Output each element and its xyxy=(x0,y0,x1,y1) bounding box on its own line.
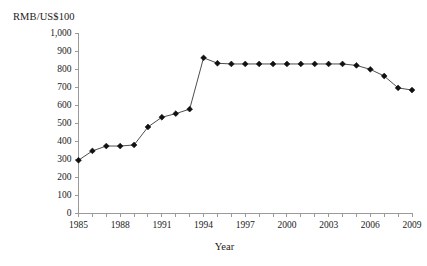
y-axis-group: 1,0009008007006005004003002001000 xyxy=(50,28,78,218)
data-point-marker xyxy=(103,143,109,149)
chart-container: RMB/US$100 1,000900800700600500400300200… xyxy=(0,0,427,266)
data-point-marker xyxy=(367,66,373,72)
data-point-marker xyxy=(256,61,262,67)
data-point-marker xyxy=(298,61,304,67)
y-tick-label: 800 xyxy=(57,64,72,74)
data-point-marker xyxy=(215,60,221,66)
y-tick-label: 600 xyxy=(57,100,72,110)
data-point-marker xyxy=(409,87,415,93)
data-point-marker xyxy=(187,106,193,112)
y-tick-label: 300 xyxy=(57,154,72,164)
y-tick-label: 200 xyxy=(57,172,72,182)
data-point-marker xyxy=(340,61,346,67)
x-axis-group: 198519881991199419972000200320062009 xyxy=(69,213,422,230)
axis-lines xyxy=(79,33,413,214)
x-tick-label: 2003 xyxy=(319,220,338,230)
data-point-marker xyxy=(354,63,360,69)
data-point-marker xyxy=(173,111,179,117)
data-point-marker xyxy=(117,143,123,149)
y-tick-label: 1,000 xyxy=(50,28,72,38)
x-axis-title: Year xyxy=(0,241,427,252)
x-axis-title-label: Year xyxy=(215,241,234,252)
chart-plot-area: 1,0009008007006005004003002001000 198519… xyxy=(0,0,427,266)
data-point-marker xyxy=(89,148,95,154)
y-tick-label: 100 xyxy=(57,190,72,200)
x-tick-label: 2006 xyxy=(361,220,380,230)
x-tick-label: 1994 xyxy=(194,220,213,230)
y-tick-label: 900 xyxy=(57,46,72,56)
data-point-marker xyxy=(76,157,82,163)
data-point-marker xyxy=(201,55,207,61)
y-tick-label: 700 xyxy=(57,82,72,92)
data-point-marker xyxy=(228,61,234,67)
x-tick-label: 1991 xyxy=(152,220,171,230)
x-tick-label: 1988 xyxy=(111,220,130,230)
data-series-group xyxy=(76,55,415,163)
y-tick-label: 500 xyxy=(57,118,72,128)
data-point-marker xyxy=(270,61,276,67)
x-tick-label: 1997 xyxy=(236,220,255,230)
y-tick-label: 0 xyxy=(67,208,72,218)
series-line xyxy=(79,58,413,160)
data-point-marker xyxy=(284,61,290,67)
data-point-marker xyxy=(159,114,165,120)
x-tick-label: 1985 xyxy=(69,220,88,230)
y-tick-label: 400 xyxy=(57,136,72,146)
data-point-marker xyxy=(242,61,248,67)
x-tick-label: 2000 xyxy=(277,220,296,230)
data-point-marker xyxy=(326,61,332,67)
data-point-marker xyxy=(312,61,318,67)
x-tick-label: 2009 xyxy=(403,220,422,230)
